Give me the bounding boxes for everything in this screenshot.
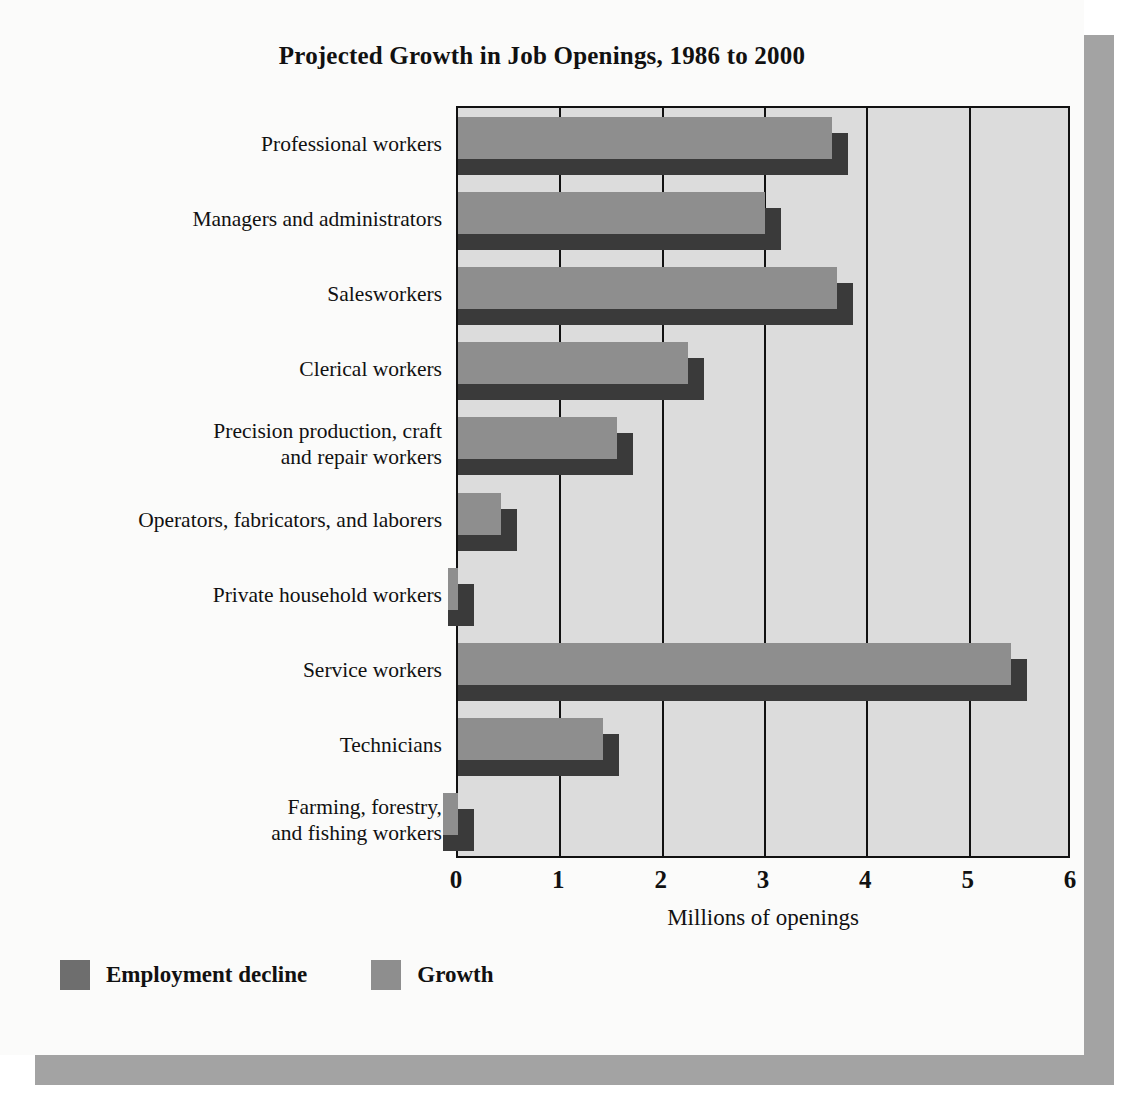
- legend-swatch-icon: [60, 960, 90, 990]
- x-tick-5: 5: [961, 866, 974, 894]
- bar-0: [458, 117, 848, 175]
- category-label-line: Service workers: [26, 657, 442, 683]
- category-label-line: Clerical workers: [26, 356, 442, 382]
- legend-swatch-icon: [371, 960, 401, 990]
- category-label-line: Operators, fabricators, and laborers: [26, 507, 442, 533]
- category-label-line: and fishing workers: [26, 820, 442, 846]
- bar-1: [458, 192, 781, 250]
- category-label-6: Private household workers: [26, 582, 456, 608]
- bar-7: [458, 643, 1027, 701]
- bar-face-2: [458, 267, 837, 309]
- legend-label: Growth: [417, 962, 493, 988]
- bar-face-3: [458, 342, 688, 384]
- bar-face-4: [458, 417, 617, 459]
- bar-4: [458, 417, 633, 475]
- chart-legend: Employment declineGrowth: [60, 960, 494, 990]
- x-axis-label: Millions of openings: [456, 905, 1070, 931]
- x-tick-0: 0: [450, 866, 463, 894]
- bar-5: [458, 493, 517, 551]
- category-label-8: Technicians: [26, 732, 456, 758]
- x-tick-3: 3: [757, 866, 770, 894]
- category-label-line: Salesworkers: [26, 281, 442, 307]
- legend-item-0: Employment decline: [60, 960, 307, 990]
- bar-face-8: [458, 718, 603, 760]
- category-label-line: and repair workers: [26, 444, 442, 470]
- bar-face-5: [458, 493, 501, 535]
- category-label-line: Technicians: [26, 732, 442, 758]
- category-label-1: Managers and administrators: [26, 206, 456, 232]
- bar-6: [448, 568, 474, 626]
- category-label-3: Clerical workers: [26, 356, 456, 382]
- category-label-5: Operators, fabricators, and laborers: [26, 507, 456, 533]
- bar-face-0: [458, 117, 832, 159]
- chart-card: Projected Growth in Job Openings, 1986 t…: [0, 0, 1084, 1055]
- category-label-0: Professional workers: [26, 131, 456, 157]
- legend-item-1: Growth: [371, 960, 493, 990]
- category-label-line: Managers and administrators: [26, 206, 442, 232]
- chart-title: Projected Growth in Job Openings, 1986 t…: [0, 42, 1084, 70]
- category-label-2: Salesworkers: [26, 281, 456, 307]
- bar-face-9: [443, 793, 458, 835]
- x-tick-2: 2: [654, 866, 667, 894]
- bar-face-7: [458, 643, 1011, 685]
- gridline-5: [969, 108, 971, 856]
- bar-face-1: [458, 192, 765, 234]
- bar-9: [443, 793, 474, 851]
- category-label-7: Service workers: [26, 657, 456, 683]
- card-shadow-right: [1084, 35, 1114, 1085]
- card-shadow-bottom: [35, 1055, 1084, 1085]
- category-label-4: Precision production, craftand repair wo…: [26, 418, 456, 470]
- category-label-9: Farming, forestry,and fishing workers: [26, 794, 456, 846]
- category-label-line: Private household workers: [26, 582, 442, 608]
- plot-area: [456, 106, 1070, 858]
- legend-label: Employment decline: [106, 962, 307, 988]
- x-tick-1: 1: [552, 866, 565, 894]
- gridline-4: [866, 108, 868, 856]
- category-label-line: Professional workers: [26, 131, 442, 157]
- bar-face-6: [448, 568, 458, 610]
- bar-8: [458, 718, 619, 776]
- category-label-line: Precision production, craft: [26, 418, 442, 444]
- bar-2: [458, 267, 853, 325]
- category-label-line: Farming, forestry,: [26, 794, 442, 820]
- x-tick-4: 4: [859, 866, 872, 894]
- bar-3: [458, 342, 704, 400]
- x-tick-6: 6: [1064, 866, 1077, 894]
